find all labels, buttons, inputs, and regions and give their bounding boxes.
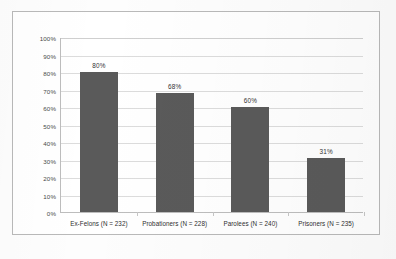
bar[interactable] — [80, 72, 118, 212]
bar[interactable] — [156, 93, 194, 212]
bar[interactable] — [307, 158, 345, 212]
bar-value-label: 80% — [92, 62, 105, 69]
bar[interactable] — [231, 107, 269, 212]
y-axis-tick-label: 70% — [43, 87, 56, 94]
y-axis-tick-label: 50% — [43, 122, 56, 129]
x-axis-category-label: Prisoners (N = 235) — [298, 220, 354, 227]
x-axis-tick — [137, 212, 138, 216]
y-axis-tick-label: 80% — [43, 70, 56, 77]
chart-page: 100%90%80%70%60%50%40%30%20%10%0% 80%68%… — [0, 0, 396, 259]
y-axis-tick-label: 20% — [43, 175, 56, 182]
y-axis-tick-label: 60% — [43, 105, 56, 112]
x-axis-tick — [213, 212, 214, 216]
bar-value-label: 60% — [244, 97, 257, 104]
bar-slot: 31% — [288, 38, 364, 212]
bar-slot: 80% — [61, 38, 137, 212]
x-axis-tick — [288, 212, 289, 216]
chart-frame: 100%90%80%70%60%50%40%30%20%10%0% 80%68%… — [12, 11, 380, 235]
x-axis-tick — [364, 212, 365, 216]
x-axis-category-label: Parolees (N = 240) — [223, 220, 277, 227]
y-axis-tick-label: 40% — [43, 140, 56, 147]
y-axis-tick-label: 90% — [43, 52, 56, 59]
bar-series: 80%68%60%31% — [61, 38, 363, 212]
bar-value-label: 68% — [168, 83, 181, 90]
plot-area: 100%90%80%70%60%50%40%30%20%10%0% 80%68%… — [60, 38, 363, 213]
y-axis-tick-label: 30% — [43, 157, 56, 164]
y-axis-tick-label: 10% — [43, 192, 56, 199]
x-axis-category-label: Probationers (N = 228) — [142, 220, 207, 227]
x-axis-category-label: Ex-Felons (N = 232) — [70, 220, 127, 227]
bar-slot: 60% — [213, 38, 289, 212]
bar-value-label: 31% — [320, 148, 333, 155]
bar-slot: 68% — [137, 38, 213, 212]
y-axis-tick-label: 0% — [47, 210, 56, 217]
y-axis-tick-label: 100% — [40, 35, 56, 42]
